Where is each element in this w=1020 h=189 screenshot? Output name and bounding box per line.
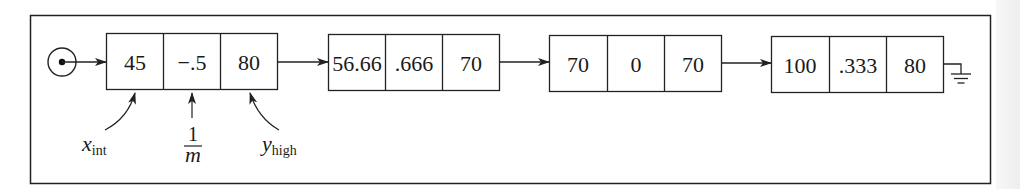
node-cell: 0 bbox=[631, 52, 642, 77]
label-inverse-slope: 1 m bbox=[184, 123, 202, 167]
linked-list-diagram: 45 −.5 80 56.66 .666 70 70 0 70 100 .333… bbox=[0, 0, 1020, 189]
node-cell: .333 bbox=[839, 53, 878, 78]
node-cell: 70 bbox=[682, 52, 704, 77]
node-cell: 70 bbox=[460, 51, 482, 76]
node-cell: 70 bbox=[567, 52, 589, 77]
node-cell: 100 bbox=[784, 53, 817, 78]
list-node-4: 100 .333 80 bbox=[772, 37, 944, 93]
annotation-arrow-y-high bbox=[250, 93, 279, 130]
label-x-int: xint bbox=[81, 131, 107, 158]
node-cell: .666 bbox=[395, 51, 434, 76]
node-cell: 56.66 bbox=[332, 51, 382, 76]
svg-text:m: m bbox=[185, 142, 201, 167]
list-node-2: 56.66 .666 70 bbox=[329, 35, 500, 91]
null-ground-icon bbox=[944, 64, 971, 83]
label-y-high: yhigh bbox=[260, 131, 297, 158]
list-node-1: 45 −.5 80 bbox=[107, 34, 278, 90]
node-cell: −.5 bbox=[178, 50, 207, 75]
annotation-arrow-x-int bbox=[105, 93, 135, 130]
node-cell: 45 bbox=[124, 50, 146, 75]
list-node-3: 70 0 70 bbox=[550, 36, 722, 92]
node-cell: 80 bbox=[904, 53, 926, 78]
node-cell: 80 bbox=[238, 50, 260, 75]
